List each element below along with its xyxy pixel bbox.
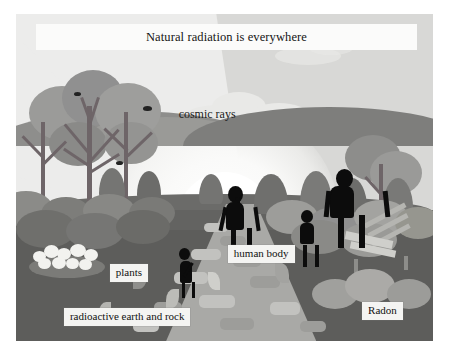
label-human-body: human body xyxy=(228,245,295,263)
label-plants: plants xyxy=(110,264,148,282)
flower-petal xyxy=(44,245,59,258)
flower-petal xyxy=(79,259,92,270)
flower-petal xyxy=(66,258,79,269)
bench-leg xyxy=(404,256,408,270)
man-torso xyxy=(330,186,354,218)
bird-icon xyxy=(143,106,152,111)
path-stone xyxy=(270,302,300,315)
round-bush xyxy=(116,210,170,244)
path-stone xyxy=(300,321,326,332)
radiation-illustration: cosmic rays human body plants radioactiv… xyxy=(16,14,433,341)
flower-petal xyxy=(52,257,66,269)
woman-torso xyxy=(226,202,244,230)
leaf-shape xyxy=(275,263,289,283)
round-bush xyxy=(395,207,433,239)
label-radon: Radon xyxy=(362,302,403,320)
page-root: cosmic rays human body plants radioactiv… xyxy=(0,0,450,362)
path-stone xyxy=(220,318,254,330)
man-leg xyxy=(338,215,344,248)
path-stone xyxy=(250,276,280,288)
child-leg xyxy=(192,282,196,298)
child-leg xyxy=(303,245,307,267)
child-head xyxy=(301,210,313,223)
flowering-bush xyxy=(29,243,105,277)
path-stone xyxy=(191,249,221,260)
child-leg xyxy=(182,282,186,298)
illustration-title: Natural radiation is everywhere xyxy=(36,24,417,50)
path-stone xyxy=(199,295,235,308)
path-stone xyxy=(204,223,228,232)
label-radioactive-earth-and-rock: radioactive earth and rock xyxy=(64,308,191,326)
child-torso xyxy=(300,223,314,244)
label-cosmic-rays: cosmic rays xyxy=(179,107,236,122)
flower-petal xyxy=(38,258,51,269)
man-leg xyxy=(359,215,365,248)
child-leg xyxy=(315,245,319,267)
